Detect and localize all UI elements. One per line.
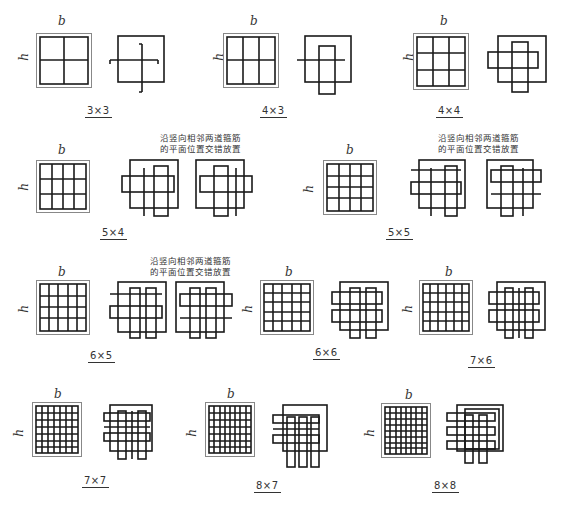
caption-7x6: 7×6 bbox=[468, 355, 495, 368]
height-label: h bbox=[17, 53, 31, 61]
caption-4x3: 4×3 bbox=[260, 105, 287, 118]
height-label: h bbox=[363, 429, 377, 437]
caption-8x8: 8×8 bbox=[432, 480, 459, 493]
stirrup-detail-5x5-a bbox=[411, 160, 467, 220]
section-grid-3x3 bbox=[36, 33, 94, 89]
width-label: b bbox=[405, 388, 413, 402]
stirrup-detail-6x5-b bbox=[176, 282, 234, 340]
section-grid-7x6 bbox=[419, 280, 475, 336]
section-grid-8x7 bbox=[205, 402, 257, 458]
caption-6x5: 6×5 bbox=[88, 350, 115, 363]
stirrup-detail-7x7 bbox=[104, 405, 154, 461]
stirrup-detail-7x6 bbox=[489, 282, 547, 340]
section-grid-5x5 bbox=[323, 160, 379, 216]
stirrup-detail-4x4 bbox=[488, 36, 550, 96]
height-label: h bbox=[302, 185, 316, 193]
section-grid-4x4 bbox=[413, 33, 471, 91]
caption-5x4: 5×4 bbox=[100, 227, 127, 240]
width-label: b bbox=[445, 265, 453, 279]
width-label: b bbox=[285, 265, 293, 279]
width-label: b bbox=[346, 143, 354, 157]
caption-5x5: 5×5 bbox=[386, 227, 413, 240]
section-grid-8x8 bbox=[381, 403, 433, 459]
stirrup-detail-6x6 bbox=[332, 282, 390, 340]
width-label: b bbox=[58, 14, 66, 28]
stirrup-detail-4x3 bbox=[297, 36, 355, 96]
width-label: b bbox=[250, 14, 258, 28]
height-label: h bbox=[185, 429, 199, 437]
section-grid-6x6 bbox=[260, 280, 316, 336]
height-label: h bbox=[401, 305, 415, 313]
section-grid-5x4 bbox=[36, 160, 92, 214]
caption-8x7: 8×7 bbox=[254, 480, 281, 493]
stirrup-detail-3x3 bbox=[110, 36, 166, 94]
section-grid-4x3 bbox=[223, 33, 281, 89]
width-label: b bbox=[440, 14, 448, 28]
width-label: b bbox=[227, 387, 235, 401]
caption-4x4: 4×4 bbox=[436, 105, 463, 118]
height-label: h bbox=[17, 183, 31, 191]
section-grid-6x5 bbox=[36, 280, 92, 336]
width-label: b bbox=[54, 387, 62, 401]
width-label: b bbox=[58, 143, 66, 157]
stirrup-detail-8x8 bbox=[447, 405, 505, 465]
stirrup-detail-8x7 bbox=[273, 405, 329, 469]
stagger-note: 沿竖向相邻两道箍筋的平面位置交错放置 bbox=[428, 133, 528, 155]
stirrup-detail-5x5-b bbox=[487, 160, 543, 220]
stagger-note: 沿竖向相邻两道箍筋的平面位置交错放置 bbox=[140, 256, 240, 278]
height-label: h bbox=[17, 305, 31, 313]
caption-6x6: 6×6 bbox=[313, 347, 340, 360]
height-label: h bbox=[12, 429, 26, 437]
stagger-note: 沿竖向相邻两道箍筋的平面位置交错放置 bbox=[150, 133, 250, 155]
stirrup-detail-6x5-a bbox=[110, 282, 168, 340]
stirrup-detail-5x4-a bbox=[122, 160, 180, 218]
height-label: h bbox=[241, 305, 255, 313]
width-label: b bbox=[58, 265, 66, 279]
stirrup-detail-5x4-b bbox=[196, 160, 254, 218]
section-grid-7x7 bbox=[32, 402, 84, 458]
caption-7x7: 7×7 bbox=[82, 475, 109, 488]
caption-3x3: 3×3 bbox=[85, 105, 112, 118]
